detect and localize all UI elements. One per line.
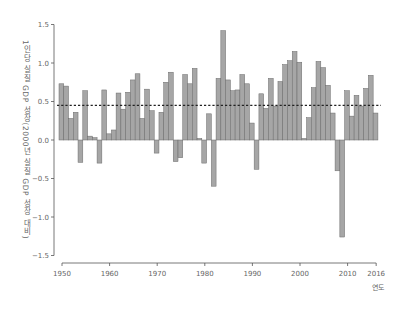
bar-1957	[92, 138, 97, 140]
bar-2010	[345, 91, 350, 140]
bar-2007	[330, 113, 335, 140]
y-tick-label: 0.5	[38, 98, 49, 106]
bar-1954	[78, 140, 83, 162]
bar-1977	[188, 84, 193, 140]
bar-1952	[69, 118, 74, 140]
bar-1958	[97, 140, 102, 163]
bar-2016	[373, 113, 378, 140]
bar-1953	[73, 112, 78, 140]
bar-1972	[164, 82, 169, 140]
bar-2015	[368, 75, 373, 140]
bar-chart: 1.51.00.50.0−0.5−1.0−1.5 195019601970198…	[0, 0, 407, 311]
bar-1968	[145, 89, 150, 140]
bar-1969	[149, 111, 154, 140]
bar-1961	[111, 130, 116, 140]
y-tick-label: −1.0	[32, 214, 49, 222]
bar-2009	[340, 140, 345, 237]
bar-1975	[178, 140, 183, 158]
bar-1966	[135, 74, 140, 140]
bar-1985	[226, 80, 231, 140]
bar-1962	[116, 93, 121, 140]
x-tick-label: 1970	[148, 270, 166, 278]
bar-1989	[245, 84, 250, 140]
bar-1976	[183, 75, 188, 140]
bar-1964	[126, 92, 131, 140]
bar-1965	[130, 80, 135, 140]
bar-1951	[64, 86, 69, 140]
bar-1967	[140, 118, 145, 140]
bar-1974	[173, 140, 178, 162]
bar-1990	[249, 123, 254, 140]
bar-2005	[321, 68, 326, 140]
bar-2012	[354, 95, 359, 140]
bars-group	[59, 31, 378, 237]
bar-2008	[335, 140, 340, 171]
bar-1983	[216, 78, 221, 140]
y-tick-label: −0.5	[32, 175, 49, 183]
bar-1995	[273, 106, 278, 140]
bar-1994	[268, 78, 273, 140]
bar-1996	[278, 81, 283, 140]
bar-1970	[154, 140, 159, 153]
y-tick-label: 0.0	[38, 137, 49, 145]
bar-2000	[297, 62, 302, 140]
bar-1971	[159, 112, 164, 140]
bar-1988	[240, 75, 245, 140]
bar-1982	[211, 140, 216, 186]
y-tick-label: 1.0	[38, 60, 49, 68]
bar-1981	[207, 114, 212, 140]
bar-1959	[102, 90, 107, 140]
x-tick-label: 2000	[291, 270, 309, 278]
y-axis-title: 1인당 실질 GDP 성장(2000년 실질 GDP 성장 대비)	[17, 30, 31, 250]
x-axis: 19501960197019801990200020102016	[53, 263, 386, 278]
bar-1973	[168, 72, 173, 140]
bar-2003	[311, 88, 316, 140]
bar-2013	[359, 106, 364, 140]
y-axis: 1.51.00.50.0−0.5−1.0−1.5	[32, 21, 54, 260]
x-tick-label: 1960	[101, 270, 119, 278]
bar-2001	[302, 138, 307, 140]
x-tick-label: 2010	[339, 270, 357, 278]
bar-1998	[287, 61, 292, 140]
bar-2011	[349, 116, 354, 140]
x-tick-label: 1950	[53, 270, 71, 278]
bar-1993	[264, 108, 269, 140]
bar-1992	[259, 94, 264, 140]
bar-2004	[316, 61, 321, 140]
bar-1986	[230, 91, 235, 140]
x-tick-label: 2016	[367, 270, 385, 278]
bar-1963	[121, 109, 126, 140]
bar-1950	[59, 84, 64, 140]
bar-2006	[326, 85, 331, 140]
bar-1999	[292, 51, 297, 140]
x-tick-label: 1980	[196, 270, 214, 278]
bar-1979	[197, 138, 202, 140]
bar-2002	[307, 118, 312, 140]
bar-1978	[192, 68, 197, 140]
x-tick-label: 1990	[243, 270, 261, 278]
bar-1960	[107, 134, 112, 140]
bar-1955	[83, 91, 88, 140]
bar-1956	[88, 136, 93, 140]
bar-1997	[283, 65, 288, 140]
x-axis-title: 연도	[372, 284, 385, 292]
bar-1980	[202, 140, 207, 163]
y-tick-label: 1.5	[38, 21, 49, 29]
bar-1984	[221, 31, 226, 140]
bar-1991	[254, 140, 259, 169]
bar-1987	[235, 90, 240, 140]
bar-2014	[364, 88, 369, 140]
y-tick-label: −1.5	[32, 252, 49, 260]
